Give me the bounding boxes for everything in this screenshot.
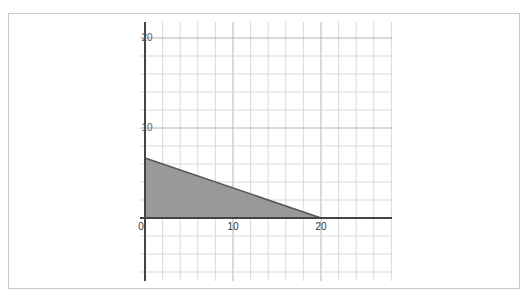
x-tick-label-10: 10 — [227, 221, 239, 232]
x-tick-label-20: 20 — [315, 221, 327, 232]
y-tick-label-10: 10 — [141, 122, 153, 133]
x-tick-label-0: 0 — [138, 221, 144, 232]
grid-lines — [140, 22, 392, 281]
chart-canvas: 0 10 20 10 20 — [0, 0, 529, 297]
y-tick-label-20: 20 — [141, 32, 153, 43]
